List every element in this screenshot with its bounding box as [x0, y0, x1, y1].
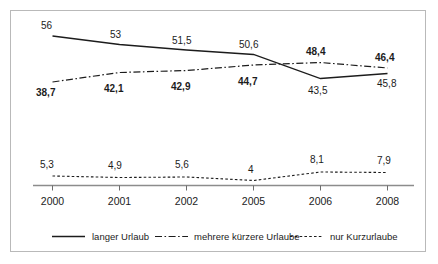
data-label-mehrere-kuerzere-urlaube-2002: 42,9: [171, 82, 190, 92]
x-tick-label-2002: 2002: [175, 196, 198, 207]
series-line-mehrere-kuerzere-urlaube: [53, 63, 388, 83]
chart-figure: 56 53 51,5 50,6 43,5 45,8 38,7 42,1 42,9…: [0, 0, 438, 264]
data-label-nur-kurzurlaube-2005: 4: [248, 165, 254, 175]
x-tick-label-2006: 2006: [309, 196, 332, 207]
series-line-nur-kurzurlaube: [53, 172, 388, 181]
data-label-nur-kurzurlaube-2008: 7,9: [377, 156, 391, 166]
data-label-nur-kurzurlaube-2000: 5,3: [40, 160, 54, 170]
data-label-mehrere-kuerzere-urlaube-2001: 42,1: [104, 84, 123, 94]
data-label-langer-urlaub-2008: 45,8: [377, 79, 396, 89]
data-label-langer-urlaub-2001: 53: [110, 30, 121, 40]
x-tick-label-2008: 2008: [376, 196, 399, 207]
legend-label-langer-urlaub: langer Urlaub: [92, 232, 149, 242]
series-line-langer-urlaub: [53, 36, 388, 79]
x-tick-label-2005: 2005: [242, 196, 265, 207]
chart-plot-area: [0, 0, 438, 264]
data-label-nur-kurzurlaube-2006: 8,1: [310, 155, 324, 165]
x-tick-label-2001: 2001: [108, 196, 131, 207]
data-label-nur-kurzurlaube-2001: 4,9: [108, 161, 122, 171]
data-label-mehrere-kuerzere-urlaube-2008: 46,4: [375, 53, 394, 63]
legend-label-nur-kurzurlaube: nur Kurzurlaube: [330, 232, 398, 242]
x-tick-label-2000: 2000: [41, 196, 64, 207]
data-label-langer-urlaub-2000: 56: [41, 21, 52, 31]
data-label-langer-urlaub-2005: 50,6: [239, 40, 258, 50]
data-label-mehrere-kuerzere-urlaube-2000: 38,7: [36, 88, 55, 98]
data-label-langer-urlaub-2006: 43,5: [308, 86, 327, 96]
data-label-langer-urlaub-2002: 51,5: [172, 36, 191, 46]
data-label-mehrere-kuerzere-urlaube-2006: 48,4: [306, 47, 325, 57]
legend-label-mehrere-kuerzere-urlaube: mehrere kürzere Urlaube: [194, 232, 300, 242]
data-label-mehrere-kuerzere-urlaube-2005: 44,7: [238, 77, 257, 87]
x-axis-ticks: [53, 186, 388, 191]
data-label-nur-kurzurlaube-2002: 5,6: [175, 160, 189, 170]
